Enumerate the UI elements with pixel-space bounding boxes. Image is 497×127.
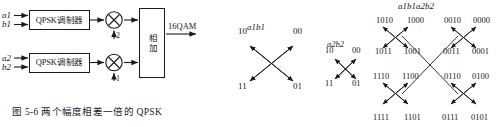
adder-label: 相加	[148, 34, 157, 53]
qpsk-modulator-label-1: QPSK调制器	[36, 16, 83, 25]
constellation-point-16qam-1000: 1000	[407, 15, 424, 25]
gain-label-1: 1	[116, 74, 120, 83]
qpsk-modulator-label-2: QPSK调制器	[36, 58, 83, 67]
constellation-point-16qam-1100: 1100	[402, 71, 419, 81]
gain-label-2: 2	[116, 31, 120, 40]
figure-5-6: a1 b1 a2 b2 QPSK调制器 QPSK调制器 2 1 相加 16QAM…	[0, 0, 497, 127]
constellation-point-16qam-0110: 0110	[444, 71, 461, 81]
constellation-point-16qam-0101: 0101	[471, 112, 488, 122]
constellation-point-a2b2-10: 10	[325, 45, 334, 55]
constellation-point-16qam-0000: 0000	[473, 15, 490, 25]
input-label-b1: b1	[2, 19, 11, 29]
constellation-point-a2b2-11: 11	[325, 78, 333, 88]
figure-caption: 图 5-6 两个幅度相差一倍的 QPSK	[12, 104, 162, 118]
constellation-point-a2b2-01: 01	[352, 78, 361, 88]
qpsk-modulator-block-1[interactable]: QPSK调制器	[29, 10, 90, 30]
output-label-16qam: 16QAM	[168, 21, 196, 31]
constellation-arrows-16qam	[372, 14, 497, 124]
constellation-point-16qam-0100: 0100	[472, 71, 489, 81]
constellation-title-a1b1a2b2: a1b1a2b2	[398, 1, 434, 11]
constellation-point-a1b1-01: 01	[293, 81, 302, 91]
constellation-title-a1b1: a1b1	[247, 22, 265, 32]
constellation-point-16qam-1010: 1010	[376, 15, 393, 25]
constellation-point-16qam-0011: 0011	[443, 46, 460, 56]
constellation-point-a1b1-10: 10	[238, 26, 247, 36]
input-label-b2: b2	[2, 62, 11, 72]
constellation-point-a1b1-11: 11	[238, 81, 247, 91]
constellation-point-16qam-0111: 0111	[442, 112, 458, 122]
constellation-point-16qam-0001: 0001	[472, 46, 489, 56]
adder-block[interactable]: 相加	[139, 8, 165, 78]
constellation-point-16qam-0010: 0010	[444, 15, 461, 25]
qpsk-modulator-block-2[interactable]: QPSK调制器	[29, 53, 90, 73]
constellation-point-16qam-1111: 1111	[373, 112, 389, 122]
constellation-point-a1b1-00: 00	[293, 26, 302, 36]
constellation-point-16qam-1001: 1001	[404, 46, 421, 56]
constellation-point-a2b2-00: 00	[352, 45, 361, 55]
constellation-point-16qam-1011: 1011	[375, 46, 392, 56]
constellation-point-16qam-1110: 1110	[373, 71, 389, 81]
constellation-point-16qam-1101: 1101	[404, 112, 421, 122]
